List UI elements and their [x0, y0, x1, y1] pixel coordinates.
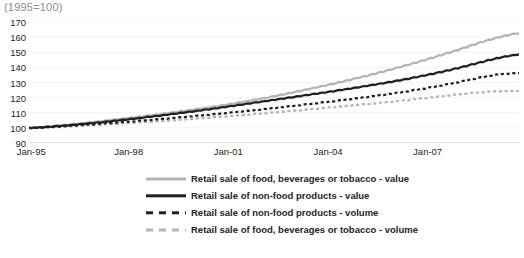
- retail-sale-index-chart: (1995=100) 90100110120130140150160170 Ja…: [0, 0, 524, 258]
- y-axis-tick-label: 150: [10, 47, 26, 58]
- x-axis-tick-label: Jan-04: [313, 146, 342, 157]
- y-axis-tick-label: 130: [10, 77, 26, 88]
- legend-line-swatch-icon: [146, 173, 186, 184]
- legend-line-swatch-icon: [146, 190, 186, 201]
- legend-item[interactable]: Retail sale of non-food products - volum…: [0, 204, 524, 221]
- data-series-line: [29, 53, 519, 128]
- legend-line-swatch-icon: [146, 207, 186, 218]
- legend-item-label: Retail sale of non-food products - volum…: [191, 207, 378, 218]
- legend-item[interactable]: Retail sale of food, beverages or tobacc…: [0, 221, 524, 238]
- x-axis-tick-label: Jan-07: [413, 146, 442, 157]
- legend-item[interactable]: Retail sale of non-food products - value: [0, 187, 524, 204]
- legend-item[interactable]: Retail sale of food, beverages or tobacc…: [0, 170, 524, 187]
- y-axis-tick-label: 160: [10, 32, 26, 43]
- data-series-line: [29, 32, 519, 128]
- legend-item-label: Retail sale of food, beverages or tobacc…: [191, 173, 409, 184]
- y-axis-labels: 90100110120130140150160170: [0, 22, 28, 143]
- y-axis-tick-label: 170: [10, 17, 26, 28]
- x-axis-tick-label: Jan-95: [17, 146, 46, 157]
- y-axis-tick-label: 110: [11, 107, 26, 118]
- x-axis-labels: Jan-95Jan-98Jan-01Jan-04Jan-07: [0, 146, 524, 162]
- x-axis-tick-label: Jan-01: [214, 146, 243, 157]
- plot-area: 90100110120130140150160170 Jan-95Jan-98J…: [0, 22, 524, 155]
- y-axis-tick-label: 100: [10, 122, 26, 133]
- y-axis-tick-label: 140: [10, 62, 26, 73]
- series-canvas: [29, 22, 519, 143]
- legend-line-swatch-icon: [146, 224, 186, 235]
- y-axis-tick-label: 120: [10, 92, 26, 103]
- x-axis-tick-label: Jan-98: [114, 146, 143, 157]
- legend-item-label: Retail sale of non-food products - value: [191, 190, 369, 201]
- chart-legend: Retail sale of food, beverages or tobacc…: [0, 170, 524, 238]
- legend-item-label: Retail sale of food, beverages or tobacc…: [191, 224, 418, 235]
- chart-title: (1995=100): [4, 1, 63, 13]
